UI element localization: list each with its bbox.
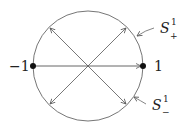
pointer-arrow-upper xyxy=(137,28,154,36)
diagonal-arrow-lower-right xyxy=(88,66,126,104)
label-s1-minus-sub: − xyxy=(162,107,170,117)
label-s1-minus: S xyxy=(152,97,162,113)
label-one: 1 xyxy=(154,58,163,74)
label-s1-plus-sup: 1 xyxy=(171,17,177,27)
label-minus-one: −1 xyxy=(9,58,30,74)
point-one-dot xyxy=(140,63,146,69)
label-s1-plus: S xyxy=(160,20,170,36)
pointer-arrow-lower xyxy=(134,97,146,104)
point-minus-one-dot xyxy=(30,63,36,69)
diagonal-arrow-lower-left xyxy=(50,66,88,104)
label-s1-plus-sub: + xyxy=(170,31,178,41)
antipodal-map-diagram: −1 1 S 1 + S 1 − xyxy=(0,0,190,130)
label-s1-minus-sup: 1 xyxy=(163,94,169,104)
diagonal-arrow-upper-left xyxy=(50,28,88,66)
diagonal-arrow-upper-right xyxy=(88,28,126,66)
